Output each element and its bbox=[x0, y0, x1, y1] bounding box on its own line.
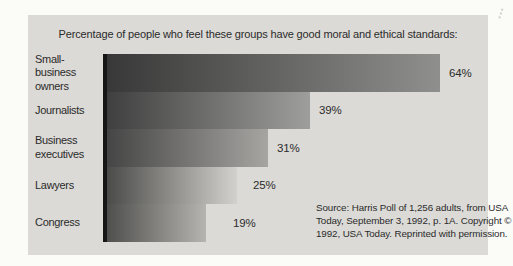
chart-row: Small-business owners 64% bbox=[28, 54, 488, 92]
category-label-business-executives: Business executives bbox=[28, 134, 103, 161]
value-label-business-executives: 31% bbox=[277, 142, 299, 154]
y-axis-line bbox=[103, 54, 107, 242]
bar-lawyers bbox=[107, 167, 237, 205]
bar-small-business-owners bbox=[107, 54, 440, 92]
value-label-congress: 19% bbox=[233, 217, 255, 229]
category-label-small-business-owners: Small-business owners bbox=[28, 53, 103, 94]
bar-journalists bbox=[107, 92, 310, 130]
bar-track: 64% bbox=[107, 54, 488, 92]
chart-title: Percentage of people who feel these grou… bbox=[28, 15, 488, 40]
bar-business-executives bbox=[107, 129, 268, 167]
category-label-journalists: Journalists bbox=[28, 104, 103, 118]
chart-row: Lawyers 25% bbox=[28, 167, 488, 205]
bar-track: 31% bbox=[107, 129, 488, 167]
stray-mark bbox=[496, 7, 504, 18]
source-note: Source: Harris Poll of 1,256 adults, fro… bbox=[316, 201, 512, 240]
category-label-congress: Congress bbox=[28, 216, 103, 230]
value-label-journalists: 39% bbox=[319, 104, 341, 116]
chart-row: Business executives 31% bbox=[28, 129, 488, 167]
chart-row: Journalists 39% bbox=[28, 92, 488, 130]
chart-panel: Percentage of people who feel these grou… bbox=[28, 15, 488, 255]
page: Percentage of people who feel these grou… bbox=[0, 0, 513, 266]
category-label-lawyers: Lawyers bbox=[28, 179, 103, 193]
bar-track: 25% bbox=[107, 167, 488, 205]
value-label-small-business-owners: 64% bbox=[449, 67, 471, 79]
bar-congress bbox=[107, 204, 206, 242]
bar-track: 39% bbox=[107, 92, 488, 130]
value-label-lawyers: 25% bbox=[253, 179, 275, 191]
